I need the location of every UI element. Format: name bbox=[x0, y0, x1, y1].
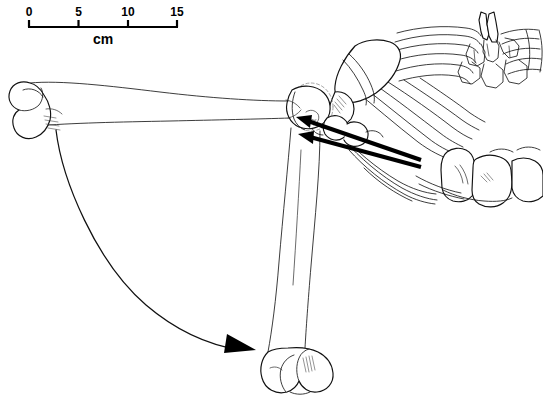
scale-label-5: 5 bbox=[75, 5, 82, 19]
anatomical-figure-canvas: 0 5 10 15 cm bbox=[0, 0, 543, 414]
scale-label-10: 10 bbox=[121, 5, 135, 19]
figure-root: 0 5 10 15 cm bbox=[0, 0, 543, 414]
scale-unit-label: cm bbox=[93, 31, 113, 47]
scale-label-0: 0 bbox=[26, 5, 33, 19]
scale-label-15: 15 bbox=[170, 5, 184, 19]
